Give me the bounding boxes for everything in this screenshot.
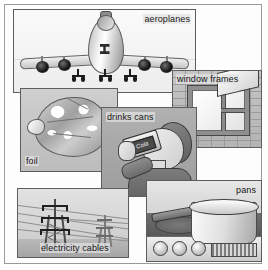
panel-label-drinks-cans: drinks cans [106,112,155,122]
aeroplane-engine [138,59,151,71]
panel-label-electricity-cables: electricity cables [40,243,110,253]
panel-label-window-frames: window frames [176,74,239,84]
foil-wrapped-parcel [35,97,109,157]
landing-gear [124,69,137,82]
landing-gear [72,69,85,82]
panel-aeroplanes: aeroplanes [13,9,196,93]
cooker-control-knob[interactable] [191,241,206,256]
boy-hand [118,141,136,161]
panel-label-pans: pans [235,185,257,195]
panel-label-aeroplanes: aeroplanes [143,14,191,24]
cooker-vent-grill [211,243,257,257]
aeroplane-engine [36,61,49,73]
aeroplane-nose-cone [97,15,115,31]
aeroplane-engine [58,59,71,71]
panel-label-foil: foil [25,156,39,166]
collage-image: aeroplanes foil window frames [0,0,268,270]
foil-twisted-end [27,119,45,135]
panel-electricity-cables: electricity cables [17,188,129,258]
landing-gear [99,69,112,82]
window-mullion-horizontal [221,108,245,113]
panel-pans: pans [146,180,262,262]
electricity-pylon-near [40,199,74,249]
cooker-control-knob[interactable] [172,241,187,256]
cooker-control-knob[interactable] [153,241,168,256]
